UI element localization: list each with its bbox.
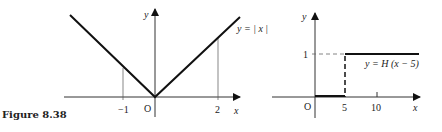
origin-label: O <box>304 101 311 112</box>
x-axis-label: x <box>233 105 239 116</box>
abs-value-graph: y O −1 2 x y = | x | <box>64 9 268 117</box>
x-axis-label: x <box>412 102 418 113</box>
y-axis-label: y <box>301 11 307 22</box>
x-tick-label-10: 10 <box>371 102 381 113</box>
figure-caption: Figure 8.38 <box>2 109 67 120</box>
x-tick-label-5: 5 <box>342 102 347 113</box>
tick-label-2: 2 <box>215 104 220 115</box>
origin-label: O <box>144 103 151 114</box>
function-label: y = H (x − 5) <box>364 58 419 70</box>
tick-label-minus-1: −1 <box>118 104 129 115</box>
function-label: y = | x | <box>236 23 268 34</box>
heaviside-graph: y 1 O 5 10 x y = H (x − 5) <box>272 11 420 118</box>
y-tick-label-1: 1 <box>303 49 308 60</box>
y-axis-label: y <box>143 9 149 20</box>
figure-canvas: y O −1 2 x y = | x | y 1 O 5 10 x y = H … <box>0 0 442 132</box>
